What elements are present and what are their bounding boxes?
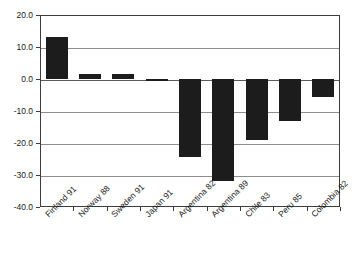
bar bbox=[146, 79, 168, 81]
bar bbox=[212, 79, 234, 181]
bar bbox=[112, 74, 134, 79]
x-tick-mark bbox=[207, 207, 208, 211]
x-axis: Finland 91Norway 88Sweden 91Japan 91Arge… bbox=[40, 212, 354, 268]
y-tick-label: 20.0 bbox=[16, 11, 33, 20]
x-tick-mark bbox=[340, 207, 341, 211]
bar bbox=[79, 74, 101, 79]
bar bbox=[246, 79, 268, 140]
x-tick-mark bbox=[107, 207, 108, 211]
bars-layer bbox=[40, 15, 340, 207]
y-tick-label: -10.0 bbox=[14, 107, 33, 116]
bar bbox=[179, 79, 201, 157]
y-tick-label: 0.0 bbox=[21, 75, 33, 84]
bar bbox=[312, 79, 334, 97]
x-tick-mark bbox=[273, 207, 274, 211]
x-tick-mark bbox=[307, 207, 308, 211]
bar-chart-figure: 20.010.00.0-10.0-20.0-30.0-40.0 Finland … bbox=[0, 0, 354, 268]
chart-title bbox=[44, 0, 314, 2]
y-axis: 20.010.00.0-10.0-20.0-30.0-40.0 bbox=[0, 15, 36, 207]
bar bbox=[279, 79, 301, 121]
y-tick-label: 10.0 bbox=[16, 43, 33, 52]
bar bbox=[46, 37, 68, 79]
y-tick-label: -30.0 bbox=[14, 171, 33, 180]
x-tick-mark bbox=[140, 207, 141, 211]
y-tick-label: -20.0 bbox=[14, 139, 33, 148]
x-tick-mark bbox=[240, 207, 241, 211]
x-tick-mark bbox=[73, 207, 74, 211]
x-tick-mark bbox=[173, 207, 174, 211]
y-tick-label: -40.0 bbox=[14, 203, 33, 212]
